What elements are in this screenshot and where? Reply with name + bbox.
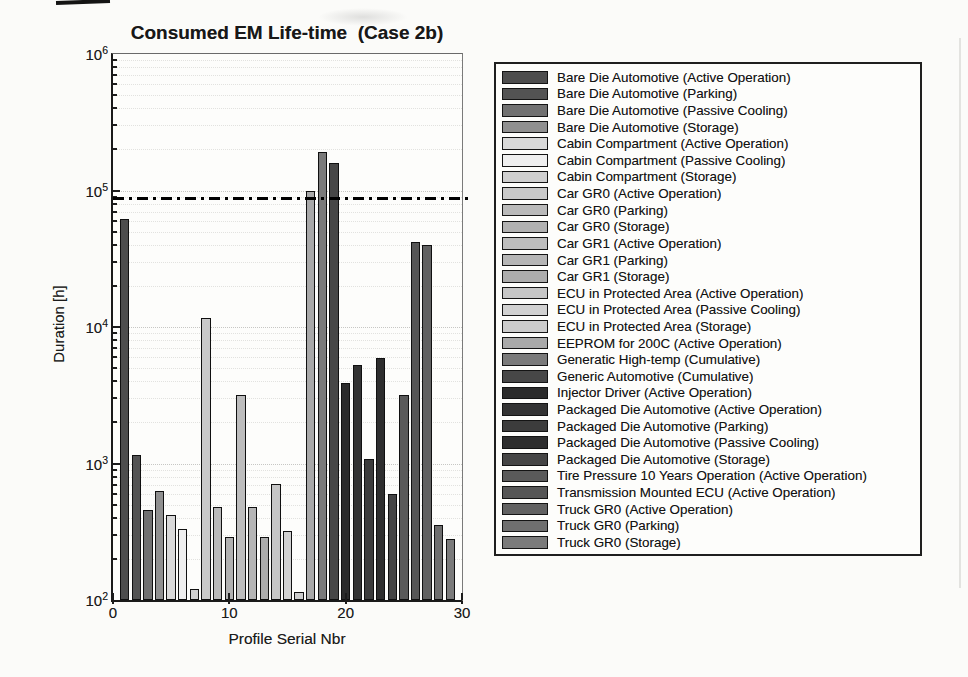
legend-label: Cabin Compartment (Storage) bbox=[557, 169, 736, 184]
legend-item: Generatic High-temp (Cumulative) bbox=[502, 351, 920, 368]
legend-swatch bbox=[502, 304, 548, 317]
bar bbox=[120, 219, 129, 600]
minor-gridline bbox=[113, 84, 462, 85]
legend-label: Truck GR0 (Parking) bbox=[557, 518, 679, 533]
minor-gridline bbox=[113, 477, 462, 478]
y-minor-tick bbox=[113, 484, 117, 486]
minor-gridline bbox=[113, 221, 462, 222]
legend-item: Truck GR0 (Active Operation) bbox=[502, 501, 920, 518]
bar bbox=[341, 383, 350, 600]
y-tick-label: 104 bbox=[64, 317, 108, 336]
bar bbox=[132, 455, 141, 600]
minor-gridline bbox=[113, 245, 462, 246]
legend-item: Car GR0 (Active Operation) bbox=[502, 185, 920, 202]
legend-swatch bbox=[502, 104, 548, 117]
y-minor-tick bbox=[113, 469, 117, 471]
bar bbox=[260, 537, 269, 600]
legend-swatch bbox=[502, 121, 548, 134]
y-minor-tick bbox=[113, 504, 117, 506]
y-minor-tick bbox=[113, 231, 117, 233]
bar bbox=[213, 507, 222, 600]
legend-item: Car GR1 (Active Operation) bbox=[502, 235, 920, 252]
minor-gridline bbox=[113, 212, 462, 213]
legend-label: Car GR1 (Active Operation) bbox=[557, 236, 721, 251]
legend-label: Packaged Die Automotive (Active Operatio… bbox=[557, 402, 822, 417]
legend-swatch bbox=[502, 520, 548, 533]
legend-label: Bare Die Automotive (Parking) bbox=[557, 86, 737, 101]
y-minor-tick bbox=[113, 203, 117, 205]
legend-item: Packaged Die Automotive (Active Operatio… bbox=[502, 401, 920, 418]
y-major-tick bbox=[113, 190, 120, 192]
y-minor-tick bbox=[113, 534, 117, 536]
legend-item: Bare Die Automotive (Active Operation) bbox=[502, 69, 920, 86]
x-tick-label: 10 bbox=[209, 604, 249, 621]
minor-gridline bbox=[113, 368, 462, 369]
minor-gridline bbox=[113, 286, 462, 287]
legend-swatch bbox=[502, 171, 548, 184]
legend-swatch bbox=[502, 353, 548, 366]
legend-label: Bare Die Automotive (Storage) bbox=[557, 120, 739, 135]
legend-swatch bbox=[502, 503, 548, 516]
legend-swatch bbox=[502, 337, 548, 350]
y-tick-label: 106 bbox=[64, 44, 108, 63]
legend-label: ECU in Protected Area (Storage) bbox=[557, 319, 751, 334]
legend-swatch bbox=[502, 204, 548, 217]
reference-line bbox=[113, 197, 469, 200]
x-tick-label: 30 bbox=[442, 604, 482, 621]
legend-item: Injector Driver (Active Operation) bbox=[502, 385, 920, 402]
y-minor-tick bbox=[113, 59, 117, 61]
bar bbox=[353, 365, 362, 600]
legend-item: Packaged Die Automotive (Storage) bbox=[502, 451, 920, 468]
legend-swatch bbox=[502, 221, 548, 234]
bar bbox=[422, 245, 431, 600]
legend-label: Truck GR0 (Active Operation) bbox=[557, 502, 733, 517]
legend-item: ECU in Protected Area (Active Operation) bbox=[502, 285, 920, 302]
y-minor-tick bbox=[113, 66, 117, 68]
legend-label: Tire Pressure 10 Years Operation (Active… bbox=[557, 468, 867, 483]
x-tick-label: 20 bbox=[326, 604, 366, 621]
y-minor-tick bbox=[113, 339, 117, 341]
legend-item: Bare Die Automotive (Passive Cooling) bbox=[502, 102, 920, 119]
minor-gridline bbox=[113, 60, 462, 61]
legend-item: Car GR0 (Parking) bbox=[502, 202, 920, 219]
legend-item: Bare Die Automotive (Storage) bbox=[502, 119, 920, 136]
y-minor-tick bbox=[113, 74, 117, 76]
legend-label: Car GR0 (Active Operation) bbox=[557, 186, 721, 201]
legend-label: Transmission Mounted ECU (Active Operati… bbox=[557, 485, 836, 500]
minor-gridline bbox=[113, 75, 462, 76]
minor-gridline bbox=[113, 125, 462, 126]
legend-item: Transmission Mounted ECU (Active Operati… bbox=[502, 484, 920, 501]
legend-swatch bbox=[502, 470, 548, 483]
y-minor-tick bbox=[113, 220, 117, 222]
legend-item: Tire Pressure 10 Years Operation (Active… bbox=[502, 468, 920, 485]
minor-gridline bbox=[113, 381, 462, 382]
legend-item: ECU in Protected Area (Passive Cooling) bbox=[502, 302, 920, 319]
y-minor-tick bbox=[113, 332, 117, 334]
bar bbox=[318, 152, 327, 600]
bar bbox=[294, 592, 303, 600]
legend-label: Truck GR0 (Storage) bbox=[557, 535, 681, 550]
scanned-figure-page: Consumed EM Life-time (Case 2b) Duration… bbox=[0, 0, 968, 677]
bar bbox=[329, 163, 338, 600]
y-minor-tick bbox=[113, 285, 117, 287]
legend-label: Car GR0 (Parking) bbox=[557, 203, 668, 218]
y-minor-tick bbox=[113, 367, 117, 369]
legend-swatch bbox=[502, 237, 548, 250]
bar bbox=[190, 589, 199, 600]
legend-item: Bare Die Automotive (Parking) bbox=[502, 86, 920, 103]
legend-label: Car GR0 (Storage) bbox=[557, 219, 669, 234]
legend-label: Car GR1 (Storage) bbox=[557, 269, 669, 284]
legend-swatch bbox=[502, 420, 548, 433]
legend-swatch bbox=[502, 187, 548, 200]
minor-gridline bbox=[113, 470, 462, 471]
legend-label: Packaged Die Automotive (Parking) bbox=[557, 419, 768, 434]
minor-gridline bbox=[113, 485, 462, 486]
legend-item: Generic Automotive (Cumulative) bbox=[502, 368, 920, 385]
y-minor-tick bbox=[113, 107, 117, 109]
minor-gridline bbox=[113, 204, 462, 205]
bar bbox=[376, 358, 385, 600]
x-tick bbox=[345, 593, 347, 600]
y-minor-tick bbox=[113, 421, 117, 423]
y-minor-tick bbox=[113, 517, 117, 519]
x-tick-outer bbox=[228, 601, 230, 604]
